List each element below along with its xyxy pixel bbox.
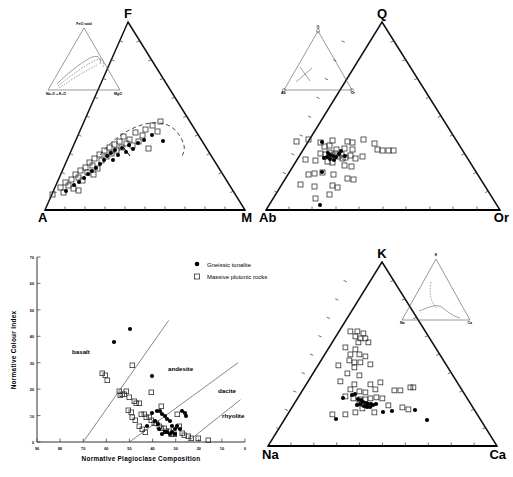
svg-text:10: 10: [30, 415, 34, 419]
afm-triangle: [45, 22, 245, 210]
panel-scatter: 0 10 20 30 40 50 60 70 90 80 70 60 50 40…: [10, 256, 246, 463]
scatter-x-axis-title: Normative Plagioclase Composition: [82, 455, 201, 463]
svg-text:30: 30: [30, 362, 34, 366]
knaca-inset-right-label: Ca: [467, 321, 473, 325]
afm-massive-points: [50, 119, 163, 197]
scatter-label-dacite: dacite: [218, 387, 236, 394]
qabor-gneissic-points: [318, 140, 347, 207]
qabor-vertex-q-label: Q: [377, 6, 387, 21]
figure-canvas: FeO total Na₂O + K₂O MgO F A M: [0, 0, 513, 477]
scatter-label-andesite: andesite: [168, 365, 194, 372]
afm-vertex-m-label: M: [241, 210, 252, 225]
qabor-inset: Q Ab Or: [281, 25, 356, 95]
qabor-inset-left-label: Ab: [281, 91, 287, 95]
panel-afm: FeO total Na₂O + K₂O MgO F A M: [38, 6, 252, 225]
scatter-x-tick-labels: 90 80 70 60 50 40 30 20 10 0: [35, 447, 246, 451]
afm-vertex-f-label: F: [124, 6, 132, 21]
knaca-ticks: [276, 280, 485, 446]
scatter-y-tick-labels: 0 10 20 30 40 50 60 70: [30, 256, 34, 445]
afm-inset-top-label: FeO total: [76, 22, 92, 26]
svg-text:70: 70: [30, 256, 34, 260]
svg-text:40: 40: [150, 447, 154, 451]
afm-inset-left-label: Na₂O + K₂O: [46, 92, 66, 96]
knaca-inset-top-label: K: [435, 253, 438, 257]
scatter-massive-points: [100, 363, 211, 443]
svg-text:90: 90: [35, 447, 39, 451]
knaca-vertex-k-label: K: [377, 246, 387, 261]
legend-label-gneissic: Gneissic tonalite: [207, 262, 252, 268]
svg-text:30: 30: [174, 447, 178, 451]
svg-text:10: 10: [220, 447, 224, 451]
legend: Gneissic tonalite Massive plutonic rocks: [195, 262, 268, 281]
knaca-inset-left-label: Na: [400, 321, 406, 325]
panel-q-ab-or: Q Ab Or Q Ab Or: [259, 6, 509, 225]
qabor-vertex-or-label: Or: [494, 210, 509, 225]
knaca-vertex-na-label: Na: [262, 447, 279, 462]
scatter-label-basalt: basalt: [72, 348, 90, 355]
afm-ticks: [53, 41, 233, 210]
legend-label-massive: Massive plutonic rocks: [207, 274, 267, 280]
scatter-y-axis-title: Normative Colour Index: [10, 311, 17, 390]
qabor-ticks: [274, 41, 488, 210]
svg-text:80: 80: [58, 447, 62, 451]
knaca-inset: K Na Ca: [400, 253, 473, 325]
svg-text:0: 0: [244, 447, 246, 451]
panel-k-na-ca: K Na Ca K Na Ca: [262, 246, 507, 462]
svg-text:70: 70: [81, 447, 85, 451]
svg-text:0: 0: [32, 441, 34, 445]
scatter-dacite-rhyolite-line: [187, 400, 240, 442]
afm-inset: FeO total Na₂O + K₂O MgO: [46, 22, 122, 96]
scatter-basalt-andesite-line: [83, 320, 169, 442]
svg-text:20: 20: [30, 388, 34, 392]
svg-text:20: 20: [197, 447, 201, 451]
svg-text:60: 60: [30, 282, 34, 286]
qabor-vertex-ab-label: Ab: [259, 210, 276, 225]
qabor-inset-top-label: Q: [317, 25, 320, 29]
knaca-vertex-ca-label: Ca: [489, 447, 506, 462]
svg-text:50: 50: [127, 447, 131, 451]
knaca-triangle: [268, 262, 497, 446]
legend-filled-circle-icon: [195, 262, 200, 267]
scatter-x-ticks: [37, 439, 245, 443]
afm-inset-right-label: MgO: [114, 92, 122, 96]
qabor-inset-right-label: Or: [351, 91, 356, 95]
svg-text:60: 60: [104, 447, 108, 451]
scatter-y-ticks: [37, 257, 41, 442]
svg-text:50: 50: [30, 309, 34, 313]
afm-vertex-a-label: A: [38, 210, 48, 225]
qabor-massive-points: [294, 137, 396, 201]
legend-open-square-icon: [195, 274, 200, 279]
scatter-label-rhyolite: rhyolite: [222, 412, 245, 419]
svg-text:40: 40: [30, 335, 34, 339]
